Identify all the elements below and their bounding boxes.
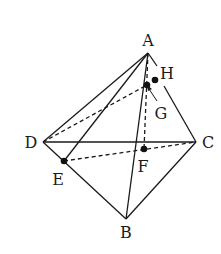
- edge-EC: [64, 142, 196, 161]
- point-G: [144, 82, 151, 89]
- point-E: [61, 158, 68, 165]
- edge-AD: [43, 53, 148, 142]
- edge-DG: [43, 85, 147, 142]
- geometry-diagram: A H G D C E F B: [0, 0, 221, 254]
- labels: A H G D C E F B: [25, 31, 215, 242]
- label-E: E: [52, 170, 64, 189]
- label-H: H: [160, 64, 174, 83]
- edge-AH: [148, 53, 157, 66]
- label-D: D: [25, 133, 38, 152]
- point-H: [152, 77, 159, 84]
- label-C: C: [202, 133, 214, 152]
- label-B: B: [120, 223, 132, 242]
- label-A: A: [141, 31, 154, 50]
- label-G: G: [155, 104, 168, 123]
- point-F: [141, 146, 148, 153]
- label-F: F: [137, 157, 148, 176]
- edge-BC: [126, 142, 196, 219]
- edge-HC: [164, 86, 196, 142]
- arrow-line: [149, 89, 157, 101]
